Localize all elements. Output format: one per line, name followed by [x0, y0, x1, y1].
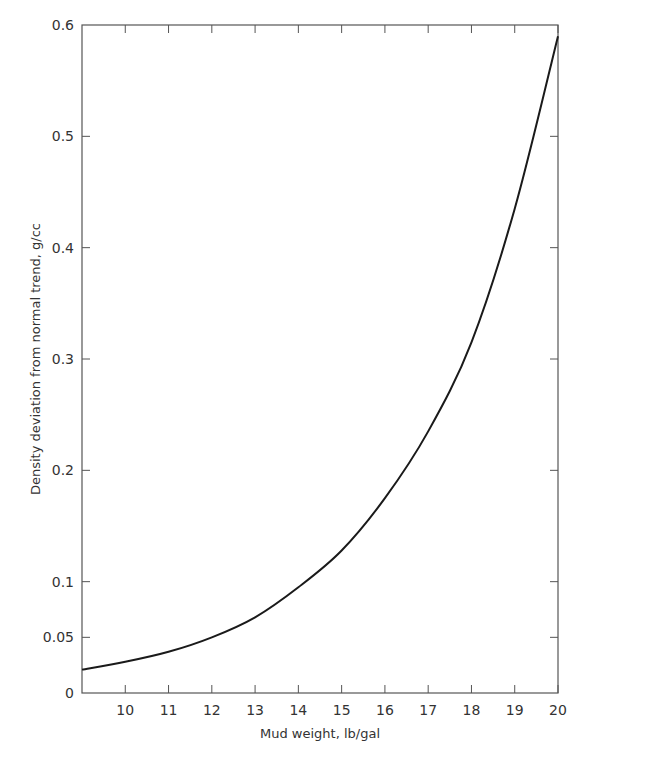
y-axis-title: Density deviation from normal trend, g/c… [28, 223, 43, 495]
x-tick-label: 15 [333, 702, 351, 718]
chart: 1011121314151617181920 00.050.10.20.30.4… [0, 0, 665, 761]
y-tick-label: 0.4 [52, 240, 74, 256]
y-axis-ticks: 00.050.10.20.30.40.50.6 [43, 17, 558, 701]
y-tick-label: 0.1 [52, 574, 74, 590]
x-tick-label: 19 [506, 702, 524, 718]
y-tick-label: 0.5 [52, 128, 74, 144]
plot-frame [82, 25, 558, 693]
data-series [82, 36, 558, 669]
y-tick-label: 0.3 [52, 351, 74, 367]
y-tick-label: 0.2 [52, 462, 74, 478]
x-tick-label: 13 [246, 702, 264, 718]
x-tick-label: 11 [160, 702, 178, 718]
plot-border [82, 25, 558, 693]
x-axis-ticks: 1011121314151617181920 [116, 25, 567, 718]
x-tick-label: 18 [463, 702, 481, 718]
x-tick-label: 17 [419, 702, 437, 718]
y-tick-label: 0.05 [43, 629, 74, 645]
y-tick-label: 0 [65, 685, 74, 701]
x-tick-label: 10 [116, 702, 134, 718]
x-axis-title: Mud weight, lb/gal [260, 726, 380, 741]
x-tick-label: 14 [289, 702, 307, 718]
x-tick-label: 20 [549, 702, 567, 718]
curve-line [82, 36, 558, 669]
y-tick-label: 0.6 [52, 17, 74, 33]
x-tick-label: 16 [376, 702, 394, 718]
x-tick-label: 12 [203, 702, 221, 718]
